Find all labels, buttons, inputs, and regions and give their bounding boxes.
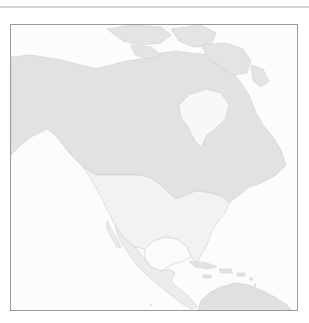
map-frame[interactable] <box>10 24 298 311</box>
pacific-island <box>150 304 152 306</box>
map-canvas <box>11 25 298 311</box>
top-divider <box>0 6 309 8</box>
